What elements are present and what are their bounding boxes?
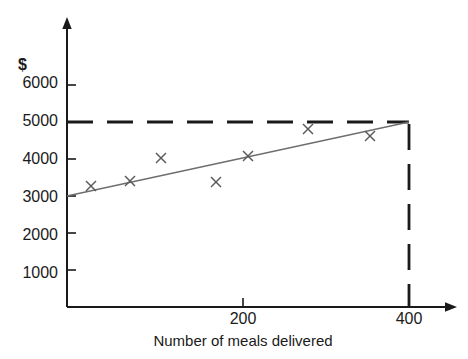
data-point-marker [86,181,96,191]
scatter-markers [86,124,375,191]
y-axis-arrow-icon [62,17,71,29]
data-point-marker [365,131,375,141]
plot-area [0,0,468,359]
y-axis-ticks [67,85,76,270]
data-point-marker [211,177,221,187]
data-point-marker [156,153,166,163]
chart-figure: $ 6000 5000 4000 3000 2000 1000 200 400 … [0,0,468,359]
x-axis-ticks [243,288,409,307]
data-point-marker [303,124,313,134]
y-axis [62,17,71,307]
x-axis-arrow-icon [445,302,457,311]
x-axis [67,302,457,311]
line-of-best-fit [67,122,409,196]
